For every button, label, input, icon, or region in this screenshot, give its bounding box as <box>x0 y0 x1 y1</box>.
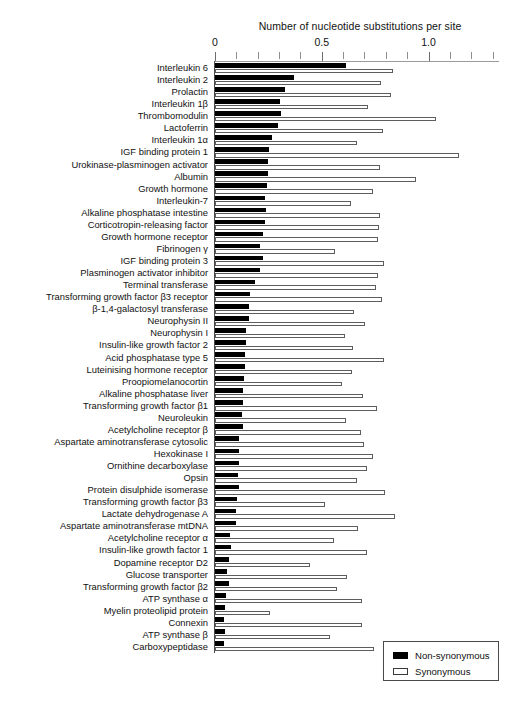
bar-non-synonymous <box>215 63 346 68</box>
category-label: β-1,4-galactosyl transferase <box>92 303 208 314</box>
bar-non-synonymous <box>215 364 245 369</box>
bar-non-synonymous <box>215 123 278 128</box>
bar-synonymous <box>215 538 334 543</box>
legend-label-non-synonymous: Non-synonymous <box>415 650 490 661</box>
bar-row <box>215 484 499 496</box>
category-label: Plasminogen activator inhibitor <box>80 267 208 278</box>
bar-row <box>215 303 499 315</box>
bar-non-synonymous <box>215 473 238 478</box>
bar-synonymous <box>215 310 354 315</box>
bar-row <box>215 423 499 435</box>
bar-synonymous <box>215 466 367 471</box>
category-label: Transforming growth factor β3 receptor <box>46 291 208 302</box>
category-label: Interleukin 1α <box>152 134 209 145</box>
category-label: Lactate dehydrogenase A <box>102 508 208 519</box>
bar-synonymous <box>215 189 373 194</box>
bar-row <box>215 448 499 460</box>
bar-non-synonymous <box>215 268 260 273</box>
bar-synonymous <box>215 358 384 363</box>
bar-synonymous <box>215 225 379 230</box>
bar-non-synonymous <box>215 75 294 80</box>
category-label: Acid phosphatase type 5 <box>105 352 208 363</box>
bar-non-synonymous <box>215 497 237 502</box>
bar-non-synonymous <box>215 171 268 176</box>
category-label: ATP synthase β <box>143 629 209 640</box>
bar-row <box>215 616 499 628</box>
x-tick-minor <box>450 52 451 59</box>
bar-row <box>215 255 499 267</box>
bar-row <box>215 243 499 255</box>
bar-non-synonymous <box>215 352 245 357</box>
bar-row <box>215 231 499 243</box>
bar-non-synonymous <box>215 304 249 309</box>
x-axis-tick-labels: 00.51.0 <box>215 36 499 50</box>
bar-synonymous <box>215 406 377 411</box>
x-tick-minor <box>343 52 344 59</box>
legend-item-non-synonymous: Non-synonymous <box>393 648 498 662</box>
bar-synonymous <box>215 526 358 531</box>
bar-non-synonymous <box>215 617 224 622</box>
x-tick-major <box>429 52 430 61</box>
category-label: Transforming growth factor β2 <box>83 581 208 592</box>
bar-non-synonymous <box>215 328 246 333</box>
legend-swatch-non-synonymous <box>393 652 408 659</box>
bar-synonymous <box>215 430 361 435</box>
x-tick-minor <box>386 52 387 59</box>
category-label: Growth hormone receptor <box>101 231 208 242</box>
bar-synonymous <box>215 346 353 351</box>
x-axis-title: Number of nucleotide substitutions per s… <box>215 20 505 32</box>
bar-non-synonymous <box>215 485 239 490</box>
plot-area <box>215 62 499 653</box>
bar-row <box>215 170 499 182</box>
bar-synonymous <box>215 129 383 134</box>
bar-synonymous <box>215 550 367 555</box>
bar-row <box>215 496 499 508</box>
legend-label-synonymous: Synonymous <box>415 666 470 677</box>
bar-synonymous <box>215 394 363 399</box>
category-label: Albumin <box>174 171 208 182</box>
bar-row <box>215 315 499 327</box>
x-tick-minor <box>471 52 472 59</box>
x-tick-minor <box>364 52 365 59</box>
category-label: Urokinase-plasminogen activator <box>71 159 208 170</box>
x-tick-label: 0 <box>212 36 218 48</box>
category-label: Alkaline phosphatase liver <box>99 388 208 399</box>
category-label: Aspartate aminotransferase mtDNA <box>60 520 208 531</box>
bar-synonymous <box>215 285 376 290</box>
bar-synonymous <box>215 322 365 327</box>
bar-non-synonymous <box>215 400 243 405</box>
category-label: IGF binding protein 1 <box>120 146 208 157</box>
bar-non-synonymous <box>215 388 243 393</box>
bar-synonymous <box>215 418 346 423</box>
category-label: Corticotropin-releasing factor <box>88 219 208 230</box>
bar-non-synonymous <box>215 376 244 381</box>
bar-non-synonymous <box>215 436 239 441</box>
bar-row <box>215 472 499 484</box>
bar-non-synonymous <box>215 424 243 429</box>
bar-non-synonymous <box>215 412 242 417</box>
bar-non-synonymous <box>215 147 269 152</box>
bar-synonymous <box>215 635 330 640</box>
bar-non-synonymous <box>215 521 236 526</box>
bar-synonymous <box>215 141 357 146</box>
bar-non-synonymous <box>215 605 225 610</box>
bar-non-synonymous <box>215 340 246 345</box>
category-label: Luteinising hormone receptor <box>87 364 208 375</box>
chart-legend: Non-synonymous Synonymous <box>383 641 499 681</box>
category-label: Transforming growth factor β3 <box>83 496 208 507</box>
bar-non-synonymous <box>215 533 230 538</box>
bar-synonymous <box>215 454 373 459</box>
bar-non-synonymous <box>215 111 281 116</box>
bar-row <box>215 182 499 194</box>
bar-row <box>215 219 499 231</box>
category-label: Thrombomodulin <box>138 110 208 121</box>
bar-synonymous <box>215 93 391 98</box>
bar-synonymous <box>215 647 374 652</box>
x-tick-major <box>322 52 323 61</box>
category-label: Lactoferrin <box>164 122 208 133</box>
category-label: Acetylcholine receptor α <box>108 532 208 543</box>
bar-non-synonymous <box>215 135 272 140</box>
category-label: Interleukin 6 <box>157 62 208 73</box>
bar-synonymous <box>215 105 368 110</box>
bar-row <box>215 580 499 592</box>
